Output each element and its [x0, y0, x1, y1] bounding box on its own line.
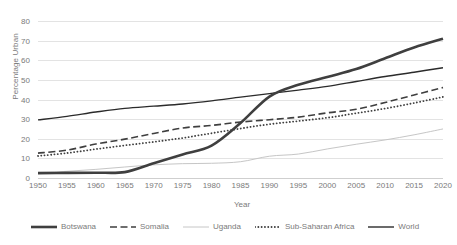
- y-axis-tick-labels: 01020304050607080: [0, 21, 34, 178]
- y-tick-label: 60: [2, 56, 30, 65]
- y-tick-label: 40: [2, 95, 30, 104]
- series-line-uganda: [38, 129, 443, 173]
- legend-swatch-world: [368, 223, 394, 231]
- chart-legend: BotswanaSomaliaUgandaSub-Saharan AfricaW…: [0, 222, 450, 231]
- legend-item-botswana[interactable]: Botswana: [31, 222, 96, 231]
- plot-area: [38, 21, 443, 178]
- legend-label-sub-saharan-africa: Sub-Saharan Africa: [285, 222, 354, 231]
- x-axis-tick-labels: 1950195519601965197019751980198519901995…: [38, 181, 443, 195]
- x-axis-title: Year: [38, 200, 446, 209]
- legend-label-botswana: Botswana: [61, 222, 96, 231]
- legend-swatch-somalia: [110, 223, 136, 231]
- y-tick-label: 30: [2, 115, 30, 124]
- series-line-sub-saharan-africa: [38, 97, 443, 156]
- legend-label-somalia: Somalia: [140, 222, 169, 231]
- legend-item-somalia[interactable]: Somalia: [110, 222, 169, 231]
- y-tick-label: 20: [2, 134, 30, 143]
- x-tick-label: 2020: [426, 181, 457, 190]
- y-tick-label: 50: [2, 75, 30, 84]
- legend-item-uganda[interactable]: Uganda: [183, 222, 241, 231]
- legend-swatch-uganda: [183, 223, 209, 231]
- legend-swatch-botswana: [31, 223, 57, 231]
- legend-label-uganda: Uganda: [213, 222, 241, 231]
- legend-swatch-sub-saharan-africa: [255, 223, 281, 231]
- legend-item-sub-saharan-africa[interactable]: Sub-Saharan Africa: [255, 222, 354, 231]
- y-tick-label: 10: [2, 154, 30, 163]
- series-line-botswana: [38, 39, 443, 173]
- series-lines: [38, 21, 443, 178]
- legend-item-world[interactable]: World: [368, 222, 419, 231]
- series-line-world: [38, 68, 443, 120]
- legend-label-world: World: [398, 222, 419, 231]
- y-tick-label: 80: [2, 17, 30, 26]
- x-axis-line: [38, 178, 443, 179]
- y-tick-label: 70: [2, 36, 30, 45]
